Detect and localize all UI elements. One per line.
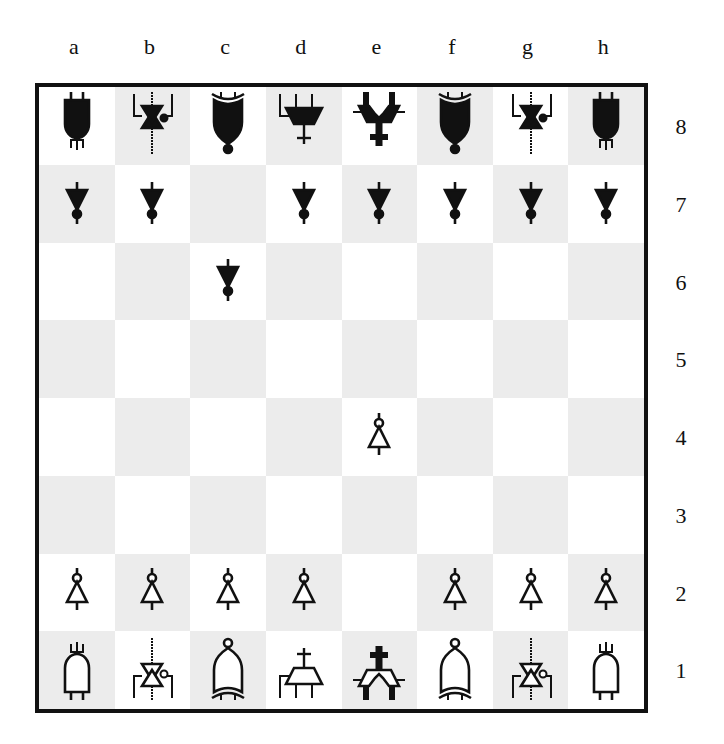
square-b4[interactable] xyxy=(115,398,191,476)
square-g3[interactable] xyxy=(493,476,569,554)
square-e8[interactable] xyxy=(342,87,418,165)
white-queen-icon[interactable] xyxy=(272,634,336,706)
black-pawn-icon[interactable] xyxy=(196,245,260,317)
black-pawn-icon[interactable] xyxy=(45,168,109,240)
square-a1[interactable] xyxy=(39,631,115,709)
square-c7[interactable] xyxy=(190,165,266,243)
square-d4[interactable] xyxy=(266,398,342,476)
square-g1[interactable] xyxy=(493,631,569,709)
square-a2[interactable] xyxy=(39,554,115,632)
square-c5[interactable] xyxy=(190,320,266,398)
black-pawn-icon[interactable] xyxy=(423,168,487,240)
white-knight-icon[interactable] xyxy=(120,634,184,706)
square-f4[interactable] xyxy=(417,398,493,476)
black-pawn-icon[interactable] xyxy=(499,168,563,240)
square-b6[interactable] xyxy=(115,243,191,321)
square-g7[interactable] xyxy=(493,165,569,243)
file-label-a: a xyxy=(36,32,112,62)
white-rook-icon[interactable] xyxy=(574,634,638,706)
square-e5[interactable] xyxy=(342,320,418,398)
square-h1[interactable] xyxy=(568,631,644,709)
black-queen-icon[interactable] xyxy=(272,90,336,162)
square-d1[interactable] xyxy=(266,631,342,709)
white-bishop-icon[interactable] xyxy=(196,634,260,706)
square-h5[interactable] xyxy=(568,320,644,398)
square-d8[interactable] xyxy=(266,87,342,165)
square-d3[interactable] xyxy=(266,476,342,554)
chess-board[interactable] xyxy=(35,83,648,713)
black-knight-icon[interactable] xyxy=(499,90,563,162)
black-knight-icon[interactable] xyxy=(120,90,184,162)
black-bishop-icon[interactable] xyxy=(196,90,260,162)
square-g4[interactable] xyxy=(493,398,569,476)
square-h4[interactable] xyxy=(568,398,644,476)
square-e3[interactable] xyxy=(342,476,418,554)
square-f1[interactable] xyxy=(417,631,493,709)
black-rook-icon[interactable] xyxy=(45,90,109,162)
black-king-icon[interactable] xyxy=(347,90,411,162)
white-pawn-icon[interactable] xyxy=(196,556,260,628)
square-b8[interactable] xyxy=(115,87,191,165)
square-c8[interactable] xyxy=(190,87,266,165)
square-h8[interactable] xyxy=(568,87,644,165)
white-pawn-icon[interactable] xyxy=(423,556,487,628)
square-g2[interactable] xyxy=(493,554,569,632)
square-f7[interactable] xyxy=(417,165,493,243)
square-b3[interactable] xyxy=(115,476,191,554)
square-f5[interactable] xyxy=(417,320,493,398)
square-c4[interactable] xyxy=(190,398,266,476)
black-pawn-icon[interactable] xyxy=(574,168,638,240)
square-b2[interactable] xyxy=(115,554,191,632)
square-e6[interactable] xyxy=(342,243,418,321)
square-g8[interactable] xyxy=(493,87,569,165)
square-d7[interactable] xyxy=(266,165,342,243)
square-d5[interactable] xyxy=(266,320,342,398)
file-label-c: c xyxy=(187,32,263,62)
square-h7[interactable] xyxy=(568,165,644,243)
square-f8[interactable] xyxy=(417,87,493,165)
square-e4[interactable] xyxy=(342,398,418,476)
black-bishop-icon[interactable] xyxy=(423,90,487,162)
white-knight-icon[interactable] xyxy=(499,634,563,706)
square-c3[interactable] xyxy=(190,476,266,554)
black-pawn-icon[interactable] xyxy=(120,168,184,240)
square-a7[interactable] xyxy=(39,165,115,243)
black-rook-icon[interactable] xyxy=(574,90,638,162)
square-e2[interactable] xyxy=(342,554,418,632)
square-a4[interactable] xyxy=(39,398,115,476)
rank-label-2: 2 xyxy=(667,579,695,609)
square-c2[interactable] xyxy=(190,554,266,632)
white-rook-icon[interactable] xyxy=(45,634,109,706)
white-pawn-icon[interactable] xyxy=(272,556,336,628)
square-b5[interactable] xyxy=(115,320,191,398)
white-pawn-icon[interactable] xyxy=(120,556,184,628)
square-a6[interactable] xyxy=(39,243,115,321)
square-h3[interactable] xyxy=(568,476,644,554)
white-king-icon[interactable] xyxy=(347,634,411,706)
square-c1[interactable] xyxy=(190,631,266,709)
square-d6[interactable] xyxy=(266,243,342,321)
square-c6[interactable] xyxy=(190,243,266,321)
square-h2[interactable] xyxy=(568,554,644,632)
square-a3[interactable] xyxy=(39,476,115,554)
square-d2[interactable] xyxy=(266,554,342,632)
white-pawn-icon[interactable] xyxy=(574,556,638,628)
square-b1[interactable] xyxy=(115,631,191,709)
square-g5[interactable] xyxy=(493,320,569,398)
square-f6[interactable] xyxy=(417,243,493,321)
black-pawn-icon[interactable] xyxy=(272,168,336,240)
square-h6[interactable] xyxy=(568,243,644,321)
square-b7[interactable] xyxy=(115,165,191,243)
black-pawn-icon[interactable] xyxy=(347,168,411,240)
white-pawn-icon[interactable] xyxy=(45,556,109,628)
square-a8[interactable] xyxy=(39,87,115,165)
square-f2[interactable] xyxy=(417,554,493,632)
white-pawn-icon[interactable] xyxy=(347,401,411,473)
square-g6[interactable] xyxy=(493,243,569,321)
white-bishop-icon[interactable] xyxy=(423,634,487,706)
square-a5[interactable] xyxy=(39,320,115,398)
square-e1[interactable] xyxy=(342,631,418,709)
square-e7[interactable] xyxy=(342,165,418,243)
white-pawn-icon[interactable] xyxy=(499,556,563,628)
square-f3[interactable] xyxy=(417,476,493,554)
